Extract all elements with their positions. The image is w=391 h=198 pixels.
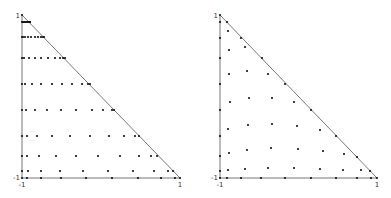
node-point [247,124,249,126]
node-point [21,83,23,85]
node-point [343,153,345,155]
node-point [87,83,89,85]
node-point [25,109,27,111]
node-point [174,177,176,179]
y-tick-top: 1 [214,12,218,20]
node-point [59,57,61,59]
node-point [267,73,269,75]
node-point [319,168,321,170]
node-point [21,57,23,59]
left-triangle-plot: 1-1-11 [13,12,182,189]
node-point [369,170,371,172]
node-point [150,155,152,157]
node-point [102,109,104,111]
node-point [108,135,110,137]
node-point [167,170,169,172]
node-point [27,170,29,172]
node-point [134,135,136,137]
node-point [219,170,221,172]
node-point [91,109,93,111]
node-point [21,170,23,172]
node-point [40,36,42,38]
node-point [138,135,140,137]
node-point [319,129,321,131]
node-point [296,125,298,127]
node-point [40,83,42,85]
node-point [40,177,42,179]
node-point [342,169,344,171]
node-point [69,135,71,137]
node-point [246,70,248,72]
node-point [89,135,91,137]
node-point [138,155,140,157]
node-point [123,135,125,137]
node-point [81,83,83,85]
node-point [267,167,269,169]
node-point [356,177,358,179]
node-point [47,57,49,59]
node-point [24,36,26,38]
node-point [97,155,99,157]
node-point [137,177,139,179]
node-point [21,155,23,157]
node-point [21,135,23,137]
node-point [22,36,24,38]
node-point [26,135,28,137]
node-point [89,83,91,85]
node-point [219,155,221,157]
node-point [113,109,115,111]
node-point [85,177,87,179]
node-point [40,170,42,172]
node-point [172,170,174,172]
y-tick-top: 1 [16,12,20,20]
node-point [26,177,28,179]
node-point [248,97,250,99]
node-point [227,169,229,171]
node-point [51,83,53,85]
node-point [244,168,246,170]
node-point [293,101,295,103]
node-point [370,177,372,179]
node-point [219,135,221,137]
node-point [246,149,248,151]
node-point [228,152,230,154]
node-point [226,21,228,23]
node-point [27,36,29,38]
node-point [59,170,61,172]
node-point [226,177,228,179]
node-point [244,46,246,48]
node-point [227,30,229,32]
node-point [270,147,272,149]
node-point [111,109,113,111]
node-point [82,170,84,172]
x-tick-right: 1 [375,181,379,189]
node-point [30,36,32,38]
node-point [26,155,28,157]
node-point [46,109,48,111]
node-point [71,83,73,85]
node-point [335,135,337,137]
node-point [322,150,324,152]
node-point [284,83,286,85]
node-point [179,177,181,179]
node-point [36,135,38,137]
hypotenuse [220,15,377,178]
node-point [38,155,40,157]
node-point [160,177,162,179]
node-point [29,21,31,23]
x-tick-right: 1 [178,181,182,189]
node-point [260,177,262,179]
node-point [297,148,299,150]
node-point [51,135,53,137]
node-point [219,57,221,59]
node-point [54,57,56,59]
node-point [34,109,36,111]
node-point [28,57,30,59]
node-point [219,14,221,16]
node-point [271,97,273,99]
right-triangle-plot: 1-1-11 [211,12,379,189]
node-point [219,21,221,23]
node-point [37,36,39,38]
node-point [335,177,337,179]
node-point [75,155,77,157]
